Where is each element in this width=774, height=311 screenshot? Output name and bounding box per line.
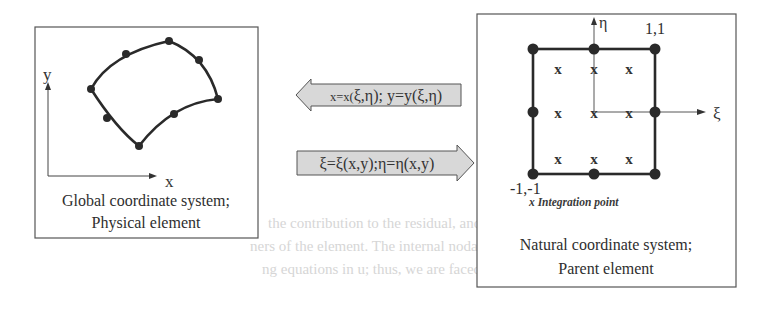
node-dot (650, 44, 661, 55)
node-dot (528, 107, 539, 118)
mapping-arrow-to-natural: ξ=ξ(x,y);η=η(x,y) (297, 145, 474, 181)
integration-point-marker: x (590, 151, 598, 167)
node-dot (87, 85, 95, 93)
node-dot (165, 37, 173, 45)
eta-axis-label: η (599, 14, 607, 32)
node-dot (528, 169, 539, 180)
node-dot (122, 50, 130, 58)
node-dot (589, 44, 600, 55)
integration-point-legend: x Integration point (528, 196, 619, 209)
node-dot (135, 142, 143, 150)
integration-point-marker: x (554, 61, 562, 77)
integration-point-marker: x (625, 61, 633, 77)
node-dot (195, 56, 203, 64)
node-dot (103, 114, 111, 122)
x-axis-label: x (165, 172, 174, 191)
inverse-mapping-formula: ξ=ξ(x,y);η=η(x,y) (320, 155, 435, 173)
integration-point-marker: x (554, 105, 562, 121)
xi-axis-label: ξ (713, 104, 721, 123)
node-dot (650, 107, 661, 118)
integration-point-marker: x (590, 105, 598, 121)
mapping-arrow-to-physical: x=x(ξ,η); y=y(ξ,η) (296, 79, 461, 111)
natural-caption-line2: Parent element (558, 260, 654, 277)
physical-caption-line1: Global coordinate system; (62, 192, 230, 210)
integration-point-marker: x (625, 105, 633, 121)
integration-point-marker: x (554, 151, 562, 167)
y-axis-label: y (43, 65, 52, 84)
parent-element-panel: η ξ x x x x x x (477, 14, 736, 287)
isoparametric-mapping-figure: the contribution to the residual, and bo… (0, 0, 774, 311)
physical-caption-line2: Physical element (92, 214, 201, 232)
corner-label-bottom-left: -1,-1 (510, 180, 541, 197)
node-dot (214, 95, 222, 103)
node-dot (170, 110, 178, 118)
natural-caption-line1: Natural coordinate system; (520, 236, 692, 254)
corner-label-top-right: 1,1 (645, 20, 665, 37)
node-dot (650, 169, 661, 180)
node-dot (528, 44, 539, 55)
forward-mapping-formula: x=x(ξ,η); y=y(ξ,η) (330, 87, 442, 105)
integration-point-marker: x (625, 151, 633, 167)
integration-point-marker: x (590, 61, 598, 77)
physical-element-panel: y x Global coordinate system; Physical e… (35, 27, 258, 238)
node-dot (589, 169, 600, 180)
